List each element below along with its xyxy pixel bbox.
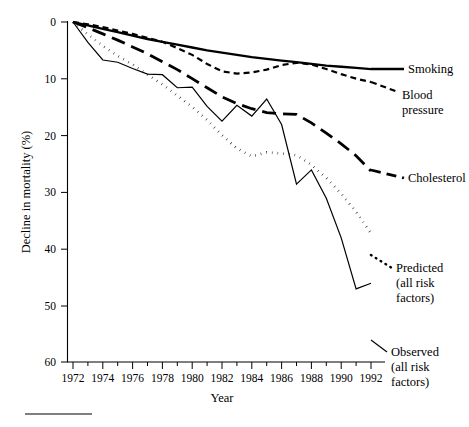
y-tick-label: 40: [45, 243, 57, 255]
legend-label-predicted-line1: Predicted: [396, 261, 444, 275]
legend-label-predicted-line3: factors): [396, 291, 434, 305]
chart-figure: 0 10 20 30 40 50 60: [0, 0, 469, 427]
y-tick-label: 10: [45, 73, 57, 85]
y-axis-tick-labels: 0 10 20 30 40 50 60: [45, 16, 57, 368]
x-tick-label: 1976: [121, 372, 144, 384]
y-tick-label: 0: [50, 16, 56, 28]
x-tick-label: 1986: [270, 372, 293, 384]
y-axis-ticks: [61, 22, 67, 362]
x-axis-tick-labels: 1972 1974 1976 1978 1980 1982 1984 1986 …: [62, 372, 383, 384]
x-tick-label: 1978: [151, 372, 174, 384]
legend-leader-observed: [371, 340, 387, 352]
legend-label-blood-pressure-line1: Blood: [402, 88, 433, 102]
y-tick-label: 20: [45, 130, 57, 142]
x-tick-label: 1988: [300, 372, 323, 384]
x-tick-label: 1982: [211, 372, 234, 384]
x-tick-label: 1992: [360, 372, 383, 384]
x-axis-ticks: [73, 362, 371, 369]
series-line-observed: [73, 22, 371, 289]
legend-label-observed-line2: (all risk: [391, 360, 430, 374]
x-tick-label: 1974: [91, 372, 114, 384]
legend-leader-predicted: [371, 255, 392, 268]
series-line-cholesterol: [73, 22, 371, 171]
legend-leader-cholesterol: [371, 170, 404, 178]
y-tick-label: 30: [45, 186, 57, 198]
x-tick-label: 1984: [240, 372, 263, 384]
x-axis-title: Year: [210, 391, 234, 405]
y-axis-title: Decline in mortality (%): [19, 131, 33, 254]
legend-leader-blood-pressure: [371, 82, 398, 92]
x-tick-label: 1990: [330, 372, 353, 384]
x-tick-label: 1980: [181, 372, 204, 384]
legend-label-observed-line1: Observed: [391, 345, 440, 359]
y-tick-label: 50: [45, 300, 57, 312]
legend-label-observed-line3: factors): [391, 375, 429, 389]
legend-label-smoking: Smoking: [408, 62, 454, 76]
legend-label-cholesterol: Cholesterol: [408, 171, 466, 185]
legend-label-predicted-line2: (all risk: [396, 276, 435, 290]
x-tick-label: 1972: [62, 372, 85, 384]
mortality-decline-line-chart: 0 10 20 30 40 50 60: [0, 0, 469, 427]
y-tick-label: 60: [45, 356, 57, 368]
legend-label-blood-pressure-line2: pressure: [402, 103, 444, 117]
